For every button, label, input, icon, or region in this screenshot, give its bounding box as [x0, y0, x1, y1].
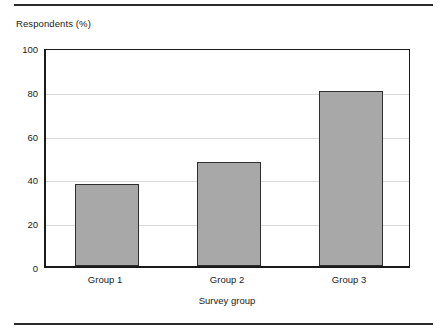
y-axis-tick-label: 20	[27, 219, 38, 230]
figure-container: Respondents (%) 020406080100 Group 1Grou…	[0, 0, 447, 334]
bar-1	[75, 184, 139, 266]
top-horizontal-rule	[14, 4, 433, 6]
y-axis-tick-labels: 020406080100	[0, 49, 38, 268]
plot-area	[44, 49, 410, 268]
bar-2	[197, 162, 261, 266]
x-axis-title: Survey group	[44, 295, 410, 306]
y-axis-tick-label: 60	[27, 131, 38, 142]
y-axis-tick-label: 80	[27, 87, 38, 98]
y-axis-tick-label: 40	[27, 175, 38, 186]
x-axis-tick-label: Group 2	[210, 274, 244, 285]
x-axis-tick-label: Group 3	[332, 274, 366, 285]
x-axis-tick-labels: Group 1Group 2Group 3	[44, 274, 410, 290]
bottom-horizontal-rule	[14, 323, 433, 325]
x-axis-tick-label: Group 1	[88, 274, 122, 285]
bar-3	[319, 91, 383, 266]
y-axis-tick-label: 100	[22, 44, 38, 55]
y-axis-title: Respondents (%)	[16, 18, 91, 29]
y-axis-tick-label: 0	[33, 263, 38, 274]
